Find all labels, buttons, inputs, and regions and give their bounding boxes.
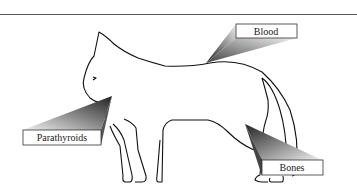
- callout-bones: Bones: [245, 124, 323, 176]
- label-parathyroids: Parathyroids: [37, 132, 88, 143]
- label-blood: Blood: [254, 26, 278, 37]
- callout-blood: Blood: [206, 24, 297, 63]
- callout-parathyroids: Parathyroids: [23, 96, 112, 145]
- label-bones: Bones: [280, 162, 305, 173]
- cat-diagram: Blood Parathyroids Bones: [0, 0, 357, 195]
